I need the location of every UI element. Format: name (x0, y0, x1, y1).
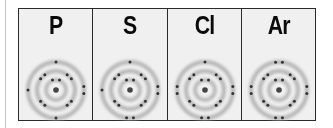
element-table: P S Cl Ar (18, 8, 316, 121)
electron (305, 92, 308, 95)
electron (70, 77, 73, 80)
electron (281, 116, 284, 119)
electron (175, 85, 178, 88)
nucleus (53, 87, 59, 93)
bohr-model-sulfur (93, 39, 168, 121)
electron (249, 92, 252, 95)
bohr-model-chlorine (168, 39, 243, 121)
electron (118, 73, 121, 76)
electron (207, 79, 210, 82)
electron (39, 77, 42, 80)
electron (214, 104, 217, 107)
panel-sulfur: S (93, 9, 167, 120)
electron (157, 85, 160, 88)
electron (305, 85, 308, 88)
electron (51, 79, 54, 82)
panel-argon: Ar (242, 9, 315, 120)
electron (218, 100, 221, 103)
electron (175, 92, 178, 95)
electron (66, 73, 69, 76)
electron (192, 73, 195, 76)
electron (288, 73, 291, 76)
electron (281, 79, 284, 82)
electron (200, 79, 203, 82)
element-symbol: P (24, 11, 86, 40)
electron (157, 92, 160, 95)
electron (43, 73, 46, 76)
electron (39, 100, 42, 103)
electron (144, 100, 147, 103)
electron (249, 85, 252, 88)
nucleus (202, 87, 208, 93)
electron (206, 116, 209, 119)
electron (70, 100, 73, 103)
electron (27, 89, 30, 92)
electron (200, 116, 203, 119)
electron (231, 85, 234, 88)
panel-chlorine: Cl (168, 9, 242, 120)
electron (55, 61, 58, 64)
electron (274, 79, 277, 82)
electron (262, 100, 265, 103)
electron (293, 100, 296, 103)
electron (140, 73, 143, 76)
element-symbol: S (99, 11, 161, 40)
electron (266, 73, 269, 76)
electron (125, 79, 128, 82)
nucleus (127, 87, 133, 93)
electron (101, 89, 104, 92)
electron (82, 85, 85, 88)
electron (140, 104, 143, 107)
electron (113, 100, 116, 103)
electron (55, 117, 58, 120)
panel-phosphorus: P (19, 9, 93, 120)
page-margin-line (5, 0, 6, 128)
electron (125, 116, 128, 119)
electron (288, 104, 291, 107)
bohr-model-argon (242, 39, 317, 121)
electron (113, 77, 116, 80)
element-symbol: Cl (173, 11, 235, 40)
electron (214, 73, 217, 76)
electron (192, 104, 195, 107)
electron (281, 61, 284, 64)
electron (274, 61, 277, 64)
electron (188, 100, 191, 103)
electron (144, 77, 147, 80)
electron (82, 92, 85, 95)
electron (231, 92, 234, 95)
electron (132, 79, 135, 82)
electron (293, 77, 296, 80)
electron (129, 61, 132, 64)
electron (43, 104, 46, 107)
electron (203, 61, 206, 64)
electron (274, 116, 277, 119)
electron (218, 77, 221, 80)
nucleus (276, 87, 282, 93)
electron (118, 104, 121, 107)
electron (66, 104, 69, 107)
bohr-model-phosphorus (19, 39, 94, 121)
electron (266, 104, 269, 107)
electron (132, 116, 135, 119)
element-symbol: Ar (247, 11, 309, 40)
electron (58, 79, 61, 82)
electron (188, 77, 191, 80)
electron (262, 77, 265, 80)
